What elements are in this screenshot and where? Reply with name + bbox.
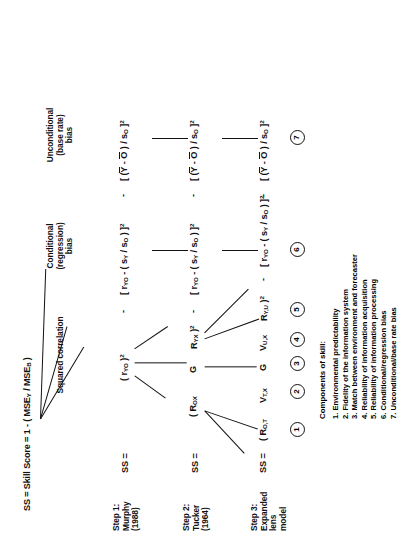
legend-title: Components of skill: bbox=[318, 254, 327, 419]
row1-minus-1: - bbox=[118, 310, 128, 313]
row1-term-conditional-bias: [ rYO - ( sY / sO ) ]2 bbox=[118, 224, 129, 295]
ss-equals-label-3: SS = bbox=[258, 453, 268, 473]
ss-equals-label-1: SS = bbox=[120, 453, 130, 473]
carry-bridge-unconditional-r1-r2 bbox=[152, 138, 188, 139]
row3-minus-2: - bbox=[258, 194, 268, 197]
carry-bridge-conditional-r1-r2 bbox=[152, 250, 188, 251]
component-number-3: 3 bbox=[290, 356, 305, 371]
row2-minus-2: - bbox=[188, 194, 198, 197]
row3-minus-1: - bbox=[258, 278, 268, 281]
legend-item-4: 4. Reliability of information acquisitio… bbox=[360, 254, 370, 419]
column-header-squared-correlation: Squared correlation bbox=[56, 307, 66, 403]
component-number-5: 5 bbox=[290, 302, 305, 317]
step-label-1: Step 1: Murphy (1988) bbox=[112, 501, 141, 531]
column-header-unconditional-bias: Unconditional (base rate) bias bbox=[46, 89, 75, 181]
legend-item-6: 6. Conditional/regression bias bbox=[379, 254, 389, 419]
legend-item-1: 1. Environmental predictability bbox=[331, 254, 341, 419]
legend-item-2: 2. Fidelity of the information system bbox=[341, 254, 351, 419]
legend-item-3: 3. Match between environment and forecas… bbox=[350, 254, 360, 419]
legend-components-of-skill: Components of skill: 1. Environmental pr… bbox=[318, 254, 398, 419]
ss-equals-label-2: SS = bbox=[190, 453, 200, 473]
carry-bridge-unconditional-r2-r3 bbox=[222, 138, 258, 139]
row1-term-squared-correlation: ( rYO )2 bbox=[118, 354, 129, 381]
row2-term-ROX: ( ROX bbox=[188, 396, 198, 417]
component-number-2: 2 bbox=[290, 384, 305, 399]
row1-minus-2: - bbox=[118, 194, 128, 197]
expansion-line-r1-to-ROX bbox=[134, 375, 166, 398]
row3-term-VUX: VU,X bbox=[258, 335, 268, 351]
row2-term-conditional-bias: [ rYO - ( sY / sO ) ]2 bbox=[188, 224, 199, 295]
carry-bridge-conditional-r2-r3 bbox=[222, 250, 258, 251]
row2-term-RYX: RYX )2 bbox=[188, 326, 199, 350]
row3-term-G: G bbox=[258, 364, 268, 371]
row2-term-unconditional-bias: [ (Y - O ) / sO ]2 bbox=[188, 120, 199, 181]
component-number-7: 7 bbox=[290, 130, 305, 145]
row1-term-unconditional-bias: [ (Y - O ) / sO ]2 bbox=[118, 120, 129, 181]
column-header-conditional-bias: Conditional (regression) bias bbox=[46, 205, 75, 287]
row3-term-VTX: VT,X bbox=[258, 388, 268, 403]
legend-item-5: 5. Reliability of information processing bbox=[369, 254, 379, 419]
row2-minus-1: - bbox=[188, 310, 198, 313]
row3-term-unconditional-bias: [ (Y - O ) / sO ]2 bbox=[258, 120, 269, 181]
expansion-line-r2-to-VUX bbox=[204, 319, 259, 340]
component-number-6: 6 bbox=[290, 242, 305, 257]
component-number-1: 1 bbox=[290, 422, 305, 437]
expansion-line-r1-to-RYX bbox=[134, 326, 168, 349]
legend-item-7: 7. Unconditional/base rate bias bbox=[389, 254, 398, 419]
expansion-line-r1-to-G bbox=[135, 362, 187, 363]
row3-term-ROT: ( RO,T bbox=[258, 419, 268, 441]
row3-term-conditional-bias: [ rYO - ( sY / sO ) ]2 bbox=[258, 196, 269, 267]
component-number-4: 4 bbox=[290, 332, 305, 347]
row2-term-G: G bbox=[188, 366, 198, 373]
step-label-2: Step 2: Tucker (1964) bbox=[182, 504, 211, 531]
row3-term-RYU: RY,U )2 bbox=[258, 296, 269, 321]
step-label-3: Step 3: Expanded lens model bbox=[250, 492, 288, 531]
expansion-line-r2-to-G bbox=[205, 366, 257, 367]
figure-title: SS = Skill Score = 1 - ( MSEY / MSEB ) bbox=[22, 357, 32, 511]
expansion-line-r2-to-RYU bbox=[204, 289, 249, 334]
